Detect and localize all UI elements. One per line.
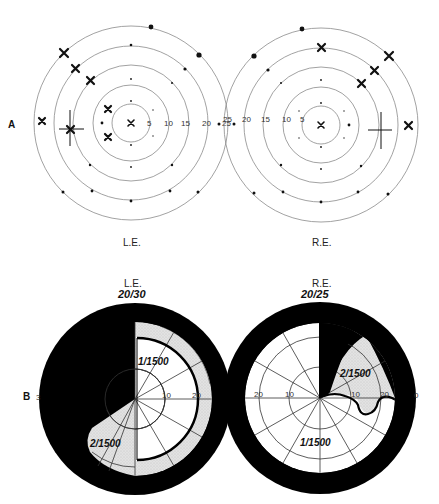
svg-text:2/1500: 2/1500 — [339, 368, 371, 379]
svg-text:3: 3 — [36, 393, 41, 402]
panel-b-left-eye-chart — [39, 303, 231, 495]
svg-text:15: 15 — [181, 119, 190, 128]
svg-text:10: 10 — [351, 390, 360, 399]
svg-text:10: 10 — [164, 119, 173, 128]
panel-a-right-eye-label: R.E. — [312, 237, 331, 248]
svg-text:1/1500: 1/1500 — [138, 356, 169, 367]
svg-text:20: 20 — [242, 115, 251, 124]
svg-text:5: 5 — [300, 115, 305, 124]
svg-text:20: 20 — [202, 119, 211, 128]
panel-a-left-eye-crosses — [39, 49, 134, 140]
svg-text:20: 20 — [254, 390, 263, 399]
svg-text:10: 10 — [282, 115, 291, 124]
panel-b-left-eye-acuity: 20/30 — [117, 288, 146, 300]
svg-text:20: 20 — [380, 390, 389, 399]
panel-a-right-eye-ring-labels: 5 10 15 20 25 — [223, 115, 305, 124]
svg-text:1/1500: 1/1500 — [300, 437, 331, 448]
svg-text:10: 10 — [285, 390, 294, 399]
panel-b-right-eye-acuity: 20/25 — [300, 288, 329, 300]
svg-text:5: 5 — [147, 119, 152, 128]
svg-text:0: 0 — [414, 391, 419, 400]
svg-text:15: 15 — [261, 115, 270, 124]
svg-text:25: 25 — [223, 115, 232, 124]
panel-a-label: A — [8, 119, 15, 130]
panel-a-right-eye-blind-spot-marker — [368, 112, 392, 149]
panel-a-left-eye-label: L.E. — [123, 237, 141, 248]
panel-b-label: B — [23, 391, 30, 402]
svg-text:2/1500: 2/1500 — [89, 438, 121, 449]
figure: A — [0, 0, 439, 504]
svg-text:10: 10 — [162, 391, 171, 400]
svg-text:20: 20 — [192, 391, 201, 400]
